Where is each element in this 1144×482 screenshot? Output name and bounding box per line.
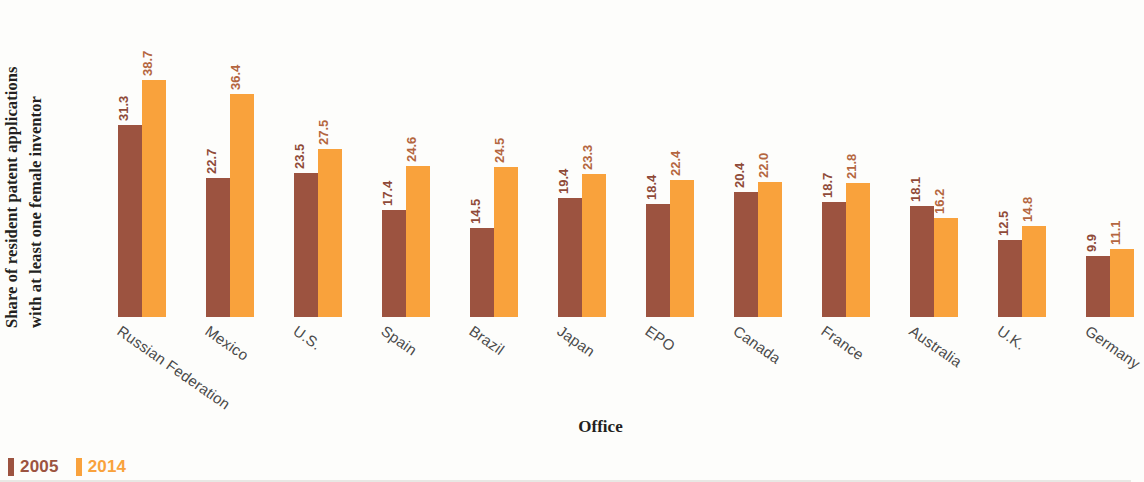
bar-2005: [470, 228, 494, 317]
bar-2005: [294, 173, 318, 317]
x-tick-label: Canada: [730, 322, 784, 367]
bar-2014: [582, 174, 606, 317]
bar-value-text: 36.4: [229, 65, 242, 90]
legend-item[interactable]: 2005: [8, 457, 59, 477]
x-tick-label: U.K.: [994, 322, 1028, 353]
bar-group: 14.524.5: [470, 0, 518, 317]
x-axis-tick-labels: Russian FederationMexicoU.S.SpainBrazilJ…: [62, 320, 1131, 416]
x-tick-label: Mexico: [202, 322, 252, 364]
bar-2014: [1110, 249, 1134, 317]
bar-value-text: 24.5: [493, 138, 506, 163]
bar-value-text: 20.4: [733, 163, 746, 188]
bar-2005: [998, 240, 1022, 317]
legend-label: 2014: [88, 457, 127, 477]
bar-2005: [382, 210, 406, 317]
bar-value-text: 19.4: [557, 169, 570, 194]
x-tick-label: U.S.: [290, 322, 324, 353]
bar-2014: [934, 218, 958, 317]
bar-value-text: 22.4: [669, 151, 682, 176]
bar-value-text: 18.1: [909, 177, 922, 202]
y-axis-title: Share of resident patent applications wi…: [0, 0, 62, 330]
bar-value-text: 38.7: [141, 51, 154, 76]
x-tick-label: EPO: [642, 322, 678, 354]
bar-2005: [558, 198, 582, 317]
bar-2014: [846, 183, 870, 317]
bar-group: 9.911.1: [1086, 0, 1134, 317]
bar-value-text: 14.5: [469, 199, 482, 224]
bar-value-text: 23.5: [293, 144, 306, 169]
bar-group: 18.116.2: [910, 0, 958, 317]
bar-value-text: 17.4: [381, 181, 394, 206]
bar-2014: [230, 94, 254, 317]
bar-value-text: 22.0: [757, 153, 770, 178]
bar-value-text: 23.3: [581, 145, 594, 170]
legend-swatch: [76, 458, 82, 476]
bar-2014: [142, 80, 166, 317]
y-axis-title-line-2: with at least one female inventor: [26, 96, 46, 328]
legend-label: 2005: [20, 457, 59, 477]
bar-value-text: 24.6: [405, 137, 418, 162]
y-axis-title-line-1: Share of resident patent applications: [2, 66, 22, 328]
bar-2014: [758, 182, 782, 317]
bar-2005: [910, 206, 934, 317]
bar-2014: [494, 167, 518, 317]
bar-2005: [1086, 256, 1110, 317]
x-tick-label: Spain: [378, 322, 420, 359]
bar-group: 20.422.0: [734, 0, 782, 317]
bar-value-text: 22.7: [205, 149, 218, 174]
bar-group: 18.422.4: [646, 0, 694, 317]
bar-value-text: 11.1: [1109, 220, 1122, 245]
bar-value-text: 27.5: [317, 119, 330, 144]
bar-2005: [206, 178, 230, 317]
bar-group: 19.423.3: [558, 0, 606, 317]
bar-group: 17.424.6: [382, 0, 430, 317]
plot-area: 31.338.722.736.423.527.517.424.614.524.5…: [62, 0, 1131, 317]
bar-value-text: 18.4: [645, 175, 658, 200]
x-axis-title-text: Office: [578, 417, 622, 436]
x-tick-label: Australia: [906, 322, 965, 370]
bar-value-text: 9.9: [1085, 234, 1098, 252]
bar-group: 18.721.8: [822, 0, 870, 317]
bar-value-text: 31.3: [117, 96, 130, 121]
x-axis-title: Office: [0, 417, 1131, 437]
bar-2005: [118, 125, 142, 317]
bar-value-text: 21.8: [845, 154, 858, 179]
bar-2005: [646, 204, 670, 317]
bar-2014: [670, 180, 694, 317]
x-tick-label: Germany: [1082, 322, 1143, 372]
bar-2005: [822, 202, 846, 317]
bar-group: 12.514.8: [998, 0, 1046, 317]
bar-value-text: 14.8: [1021, 197, 1034, 222]
legend-swatch: [8, 458, 14, 476]
bar-group: 23.527.5: [294, 0, 342, 317]
x-tick-label: France: [818, 322, 867, 363]
x-tick-label: Japan: [554, 322, 598, 360]
x-tick-label: Brazil: [466, 322, 507, 358]
bar-value-text: 12.5: [997, 211, 1010, 236]
bar-group: 22.736.4: [206, 0, 254, 317]
chart-legend: 20052014: [8, 455, 136, 479]
bar-2014: [318, 149, 342, 317]
bar-value-text: 16.2: [933, 188, 946, 213]
legend-item[interactable]: 2014: [76, 457, 127, 477]
bar-2014: [406, 166, 430, 317]
bar-2014: [1022, 226, 1046, 317]
bar-value-text: 18.7: [821, 173, 834, 198]
bar-group: 31.338.7: [118, 0, 166, 317]
bar-2005: [734, 192, 758, 317]
